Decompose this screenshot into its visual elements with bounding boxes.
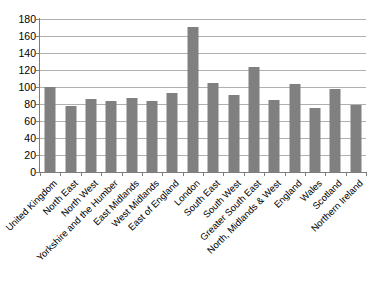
bar[interactable] <box>330 89 341 172</box>
bar-slot <box>223 19 243 172</box>
bar[interactable] <box>208 83 219 172</box>
bar[interactable] <box>147 101 158 172</box>
bar[interactable] <box>85 99 96 172</box>
y-tick-label: 40 <box>2 133 36 144</box>
bar[interactable] <box>350 105 361 172</box>
bar-slot <box>60 19 80 172</box>
y-tick-label: 160 <box>2 31 36 42</box>
y-tick-label: 140 <box>2 48 36 59</box>
y-tick-label: 0 <box>2 167 36 178</box>
y-tick-label: 60 <box>2 116 36 127</box>
bar-slot <box>285 19 305 172</box>
bar[interactable] <box>167 93 178 172</box>
bar[interactable] <box>65 106 76 172</box>
bar-slot <box>183 19 203 172</box>
bar-slot <box>264 19 284 172</box>
bar-slot <box>346 19 366 172</box>
plot-area <box>40 19 366 172</box>
x-axis-labels: United KingdomNorth EastNorth WestYorksh… <box>40 176 371 304</box>
bar[interactable] <box>106 101 117 172</box>
bar-slot <box>101 19 121 172</box>
bar-slot <box>203 19 223 172</box>
bar[interactable] <box>289 84 300 172</box>
bar-slot <box>325 19 345 172</box>
bar-slot <box>305 19 325 172</box>
y-tick-label: 100 <box>2 82 36 93</box>
bar[interactable] <box>126 98 137 172</box>
bar-chart: 180160140120100806040200 United KingdomN… <box>0 0 371 304</box>
bar-slot <box>81 19 101 172</box>
bar-slot <box>244 19 264 172</box>
y-tick-label: 20 <box>2 150 36 161</box>
bar[interactable] <box>269 100 280 172</box>
bar[interactable] <box>228 95 239 172</box>
bar[interactable] <box>187 27 198 172</box>
bar-slot <box>40 19 60 172</box>
y-tick-label: 180 <box>2 14 36 25</box>
y-tick-label: 120 <box>2 65 36 76</box>
bar-slot <box>142 19 162 172</box>
bar-slot <box>122 19 142 172</box>
bar[interactable] <box>45 87 56 172</box>
bar-slot <box>162 19 182 172</box>
bar[interactable] <box>310 108 321 172</box>
y-axis-labels: 180160140120100806040200 <box>0 0 36 304</box>
y-tick-label: 80 <box>2 99 36 110</box>
bar[interactable] <box>248 67 259 172</box>
